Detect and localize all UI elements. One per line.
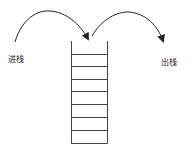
stack-diagram [0, 0, 192, 152]
stack [72, 41, 108, 144]
pop-arrow [92, 12, 163, 41]
push-label: 进栈 [8, 53, 24, 64]
pop-label: 出栈 [161, 56, 177, 67]
push-arrow [15, 11, 88, 42]
